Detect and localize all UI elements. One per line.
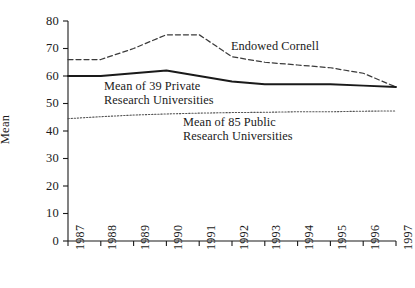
y-axis-tick-label: 40 [33, 125, 59, 138]
y-axis-ticks [63, 21, 68, 241]
x-axis-tick-label: 1988 [106, 225, 118, 250]
y-axis-tick-label: 50 [33, 97, 59, 110]
annotation-private-line1: Mean of 39 Private [104, 80, 214, 94]
y-axis-tick-label: 10 [33, 207, 59, 220]
x-axis-tick-label: 1987 [74, 225, 86, 250]
annotation-private-line2: Research Universities [104, 94, 214, 108]
y-axis-tick-label: 70 [33, 42, 59, 55]
x-axis-tick-label: 1996 [369, 225, 381, 250]
x-axis-tick-label: 1995 [336, 225, 348, 250]
annotation-public-universities: Mean of 85 Public Research Universities [183, 116, 293, 143]
y-axis-tick-label: 80 [33, 15, 59, 28]
annotation-private-universities: Mean of 39 Private Research Universities [104, 80, 214, 107]
y-axis-tick-label: 0 [33, 235, 59, 248]
x-axis-tick-label: 1997 [402, 225, 414, 250]
x-axis-tick-label: 1989 [139, 225, 151, 250]
annotation-endowed-cornell: Endowed Cornell [231, 40, 319, 54]
x-axis-tick-label: 1990 [172, 225, 184, 250]
x-axis-tick-label: 1992 [238, 225, 250, 250]
annotation-endowed-cornell-text: Endowed Cornell [231, 39, 319, 53]
x-axis-tick-label: 1994 [303, 225, 315, 250]
x-axis-tick-label: 1991 [205, 225, 217, 250]
y-axis-tick-label: 30 [33, 152, 59, 165]
y-axis-tick-label: 20 [33, 180, 59, 193]
annotation-public-line1: Mean of 85 Public [183, 116, 293, 130]
annotation-public-line2: Research Universities [183, 130, 293, 144]
y-axis-tick-label: 60 [33, 70, 59, 83]
x-axis-tick-label: 1993 [270, 225, 282, 250]
